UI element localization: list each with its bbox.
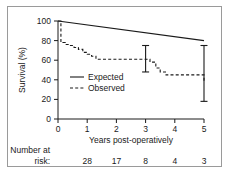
y-tick-label-60: 60 bbox=[42, 55, 52, 65]
legend-label-expected: Expected bbox=[88, 72, 124, 82]
risk-table: Number at risk: 28 17 8 4 3 bbox=[10, 145, 206, 166]
y-tick-group bbox=[54, 21, 58, 119]
x-tick-label-4: 4 bbox=[172, 124, 177, 134]
x-tick-label-0: 0 bbox=[56, 124, 61, 134]
risk-table-label-line2: risk: bbox=[34, 156, 50, 166]
x-tick-label-1: 1 bbox=[85, 124, 90, 134]
risk-table-label-line1: Number at bbox=[10, 145, 50, 155]
survival-chart: 0 20 40 60 80 100 Survival (%) 0 1 2 3 4… bbox=[8, 7, 221, 166]
figure-frame: 0 20 40 60 80 100 Survival (%) 0 1 2 3 4… bbox=[7, 6, 222, 167]
x-tick-label-2: 2 bbox=[114, 124, 119, 134]
legend: Expected Observed bbox=[70, 72, 125, 93]
series-line-observed bbox=[58, 21, 204, 82]
series-line-expected bbox=[58, 21, 204, 41]
risk-count-3: 4 bbox=[172, 156, 177, 166]
legend-label-observed: Observed bbox=[88, 83, 125, 93]
x-tick-group bbox=[58, 119, 204, 123]
y-axis-title: Survival (%) bbox=[17, 47, 27, 93]
y-tick-label-40: 40 bbox=[42, 75, 52, 85]
error-bar-group bbox=[142, 46, 207, 102]
x-tick-label-3: 3 bbox=[143, 124, 148, 134]
y-tick-label-100: 100 bbox=[37, 16, 51, 26]
risk-count-1: 17 bbox=[112, 156, 122, 166]
x-tick-label-5: 5 bbox=[202, 124, 207, 134]
y-tick-label-80: 80 bbox=[42, 36, 52, 46]
risk-count-2: 8 bbox=[143, 156, 148, 166]
y-tick-label-20: 20 bbox=[42, 94, 52, 104]
x-axis-title: Years post-operatively bbox=[89, 135, 174, 145]
risk-count-4: 3 bbox=[202, 156, 207, 166]
risk-count-0: 28 bbox=[82, 156, 92, 166]
y-tick-label-0: 0 bbox=[46, 114, 51, 124]
